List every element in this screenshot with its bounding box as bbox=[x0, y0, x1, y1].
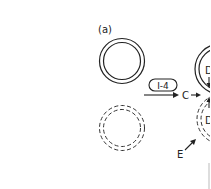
panel-label: (a) bbox=[98, 24, 112, 35]
arrow-e bbox=[185, 139, 196, 150]
arrow-shaft bbox=[185, 143, 192, 150]
arrow-d-top-down bbox=[207, 77, 211, 88]
dashed-double-ring-left bbox=[100, 106, 145, 151]
label-d-bottom: D bbox=[205, 115, 210, 126]
diagram: (a) I-4 C D D bbox=[0, 0, 210, 189]
inner-ring bbox=[104, 43, 141, 80]
arrow-to-c bbox=[144, 92, 179, 98]
solid-double-ring-left bbox=[100, 39, 145, 84]
outer-dashed-ring bbox=[100, 106, 145, 151]
label-c: C bbox=[182, 90, 189, 101]
label-d-top: D bbox=[205, 65, 210, 76]
label-box-text: I-4 bbox=[157, 81, 169, 91]
arrow-c-to-junction bbox=[191, 93, 201, 98]
label-box: I-4 bbox=[149, 79, 177, 91]
inner-dashed-ring bbox=[104, 110, 141, 147]
arrow-head-icon bbox=[173, 92, 179, 98]
outer-ring bbox=[100, 39, 145, 84]
label-e: E bbox=[177, 149, 183, 160]
arrow-head-icon bbox=[196, 93, 201, 98]
